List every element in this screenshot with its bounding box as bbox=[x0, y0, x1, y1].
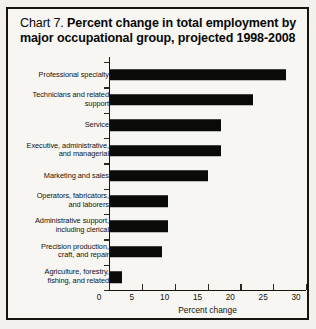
x-axis-tick bbox=[175, 284, 176, 290]
chart-figure: Chart 7. Percent change in total employm… bbox=[0, 0, 316, 329]
bar-row: Marketing and sales bbox=[8, 163, 307, 188]
bar bbox=[109, 221, 168, 233]
x-axis-title: Percent change bbox=[109, 305, 306, 315]
chart-title-lead: Chart 7. bbox=[20, 16, 64, 30]
x-axis-tick-label: 0 bbox=[89, 293, 109, 302]
y-axis-tick bbox=[104, 239, 109, 240]
x-axis-tick bbox=[306, 284, 307, 290]
bar-row: Operators, fabricators,and laborers bbox=[8, 188, 307, 213]
bar bbox=[109, 170, 208, 182]
bar-track bbox=[109, 239, 307, 264]
bar-track bbox=[109, 188, 307, 213]
bar bbox=[109, 69, 286, 81]
bar-row: Service bbox=[8, 113, 307, 138]
category-label: Precision production,craft, and repair bbox=[0, 243, 109, 260]
bar-track bbox=[109, 87, 307, 112]
bar-track bbox=[109, 138, 307, 163]
bar bbox=[109, 246, 162, 258]
category-label: Operators, fabricators,and laborers bbox=[0, 193, 109, 210]
x-axis-tick bbox=[142, 284, 143, 290]
y-axis-tick bbox=[104, 62, 109, 63]
bar-row: Precision production,craft, and repair bbox=[8, 239, 307, 264]
bar-track bbox=[109, 163, 307, 188]
x-axis-tick-label: 25 bbox=[253, 293, 273, 302]
bar-row: Technicians and relatedsupport bbox=[8, 87, 307, 112]
y-axis-tick bbox=[104, 113, 109, 114]
x-axis-tick-label: 20 bbox=[220, 293, 240, 302]
y-axis-line bbox=[109, 57, 110, 290]
x-axis-tick bbox=[273, 284, 274, 290]
category-label: Executive, administrative,and managerial bbox=[0, 142, 109, 159]
category-label: Marketing and sales bbox=[0, 172, 109, 181]
x-axis-line bbox=[109, 290, 306, 291]
bar-track bbox=[109, 214, 307, 239]
bar-row: Executive, administrative,and managerial bbox=[8, 138, 307, 163]
y-axis-tick bbox=[104, 290, 109, 291]
bar bbox=[109, 119, 221, 131]
bar-rows: Professional specialtyTechnicians and re… bbox=[8, 62, 307, 290]
y-axis-tick bbox=[104, 163, 109, 164]
x-axis-tick bbox=[240, 284, 241, 290]
bar bbox=[109, 271, 122, 283]
category-label: Administrative support,including clerica… bbox=[0, 218, 109, 235]
category-label: Technicians and relatedsupport bbox=[0, 91, 109, 108]
plot-area: Professional specialtyTechnicians and re… bbox=[8, 57, 307, 318]
bar bbox=[109, 145, 221, 157]
y-axis-tick bbox=[104, 214, 109, 215]
bar-row: Agriculture, forestry,fishing, and relat… bbox=[8, 264, 307, 289]
bar-row: Professional specialty bbox=[8, 62, 307, 87]
bar bbox=[109, 195, 168, 207]
category-label: Agriculture, forestry,fishing, and relat… bbox=[0, 268, 109, 285]
category-label: Service bbox=[0, 121, 109, 130]
y-axis-tick bbox=[104, 265, 109, 266]
x-axis-tick-label: 5 bbox=[122, 293, 142, 302]
bar-track bbox=[109, 113, 307, 138]
bar bbox=[109, 94, 253, 106]
bar-track bbox=[109, 62, 307, 87]
y-axis-tick bbox=[104, 138, 109, 139]
y-axis-tick bbox=[104, 189, 109, 190]
bar-row: Administrative support,including clerica… bbox=[8, 214, 307, 239]
category-label: Professional specialty bbox=[0, 70, 109, 79]
chart-title: Chart 7. Percent change in total employm… bbox=[20, 16, 302, 45]
x-axis-tick-label: 10 bbox=[155, 293, 175, 302]
x-axis-tick bbox=[208, 284, 209, 290]
y-axis-tick bbox=[104, 87, 109, 88]
x-axis-tick-label: 15 bbox=[188, 293, 208, 302]
x-axis-tick bbox=[109, 284, 110, 290]
chart-frame: Chart 7. Percent change in total employm… bbox=[6, 7, 309, 320]
x-axis-tick-label: 30 bbox=[286, 293, 306, 302]
